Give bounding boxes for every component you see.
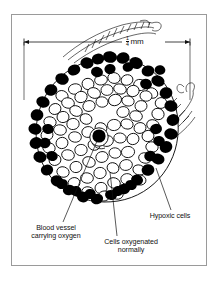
scale-bar-label: 1 4 mm: [126, 36, 144, 48]
scale-fraction: 1 4: [126, 36, 129, 48]
tumour-mass: [28, 50, 181, 206]
scale-denominator: 4: [126, 41, 129, 48]
scale-numerator: 1: [126, 36, 129, 41]
figure-root: 1 4 mm Blood vessel carrying oxygen Cell…: [0, 0, 220, 291]
scale-unit: mm: [130, 37, 143, 46]
label-cells-oxygenated-normally: Cells oxygenated normally: [89, 238, 173, 255]
label-hypoxic-cells: Hypoxic cells: [137, 212, 203, 220]
